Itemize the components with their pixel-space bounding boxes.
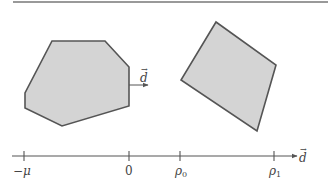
direction-vector-label: → d bbox=[140, 72, 148, 84]
axis-direction-label: → d bbox=[299, 152, 307, 164]
left-convex-polygon bbox=[25, 41, 129, 126]
tick-label-neg-mu: −μ bbox=[13, 165, 31, 177]
tick-label-zero: 0 bbox=[125, 165, 133, 177]
tick-label-subscript: 0 bbox=[182, 170, 187, 179]
tick-label-rho1: ρ1 bbox=[269, 165, 281, 179]
tick-label-subscript: 1 bbox=[276, 170, 281, 179]
tick-label-text: −μ bbox=[13, 164, 31, 178]
vector-arrow-glyph: → bbox=[141, 66, 148, 74]
right-convex-polygon bbox=[181, 22, 276, 131]
tick-label-text: ρ bbox=[269, 164, 276, 178]
tick-label-rho0: ρ0 bbox=[175, 165, 187, 179]
tick-label-text: ρ bbox=[175, 164, 182, 178]
tick-label-text: 0 bbox=[125, 164, 133, 178]
vector-arrow-glyph: → bbox=[300, 146, 307, 154]
